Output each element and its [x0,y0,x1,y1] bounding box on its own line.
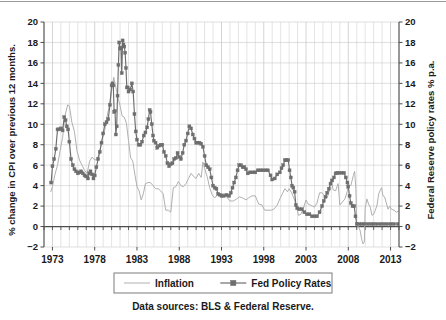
series-marker [129,88,132,91]
series-marker [346,181,349,184]
series-marker [124,67,127,70]
series-marker [273,177,276,180]
series-marker [331,179,334,182]
series-marker [112,84,115,87]
series-marker [300,208,303,211]
series-marker [116,94,119,97]
legend-label: Inflation [155,278,194,289]
series-marker [229,191,232,194]
y-axis-title-left: % change in CPI over previous 12 months. [6,44,17,236]
series-marker [70,158,73,161]
series-marker [289,176,292,179]
y-tick-label-right: 0 [405,221,410,232]
series-marker [191,133,194,136]
series-marker [292,186,295,189]
series-marker [282,164,285,167]
zero-line [44,227,399,231]
chart-canvas: −202468101214161820−20246810121416182019… [0,0,446,320]
series-marker [193,137,196,140]
series-fed-policy-rates [50,39,400,226]
series-marker [372,222,375,225]
series-marker [67,128,70,131]
series-marker [332,176,335,179]
series-marker [347,185,350,188]
x-tick-label: 1998 [253,254,276,265]
series-marker [288,169,291,172]
y-tick-label-left: 10 [27,119,38,130]
series-marker [329,182,332,185]
series-marker [139,143,142,146]
series-marker [234,176,237,179]
y-tick-label-right: 6 [405,160,410,171]
series-marker [201,145,204,148]
y-tick-label-left: 0 [33,221,38,232]
series-marker [89,170,92,173]
series-marker [53,158,56,161]
series-marker [147,118,150,121]
series-marker [123,45,126,48]
series-marker [348,194,351,197]
x-tick-label: 2008 [337,254,360,265]
series-marker [287,159,290,162]
series-marker [63,116,66,119]
series-marker [132,90,135,93]
y-tick-label-right: 20 [405,16,416,27]
x-tick-label: 1983 [126,254,149,265]
series-marker [134,130,137,133]
series-marker [324,195,327,198]
series-marker [115,125,118,128]
series-marker [118,41,121,44]
series-marker [316,215,319,218]
legend-sample-marker [231,280,236,285]
inflation-vs-fed-rates-chart: −202468101214161820−20246810121416182019… [0,0,446,320]
series-marker [210,176,213,179]
x-tick-label: 1993 [210,254,233,265]
series-marker [181,151,184,154]
series-marker [376,222,379,225]
series-marker [144,131,147,134]
series-marker [344,176,347,179]
series-layer [50,39,400,244]
y-tick-label-left: 16 [27,57,38,68]
series-marker [133,113,136,116]
series-marker [366,222,369,225]
series-marker [174,157,177,160]
y-tick-label-right: 12 [405,98,416,109]
y-tick-label-left: 6 [33,160,38,171]
series-marker [236,169,239,172]
series-marker [245,168,248,171]
series-marker [203,154,206,157]
series-marker [121,39,124,42]
y-tick-label-left: 8 [33,139,38,150]
series-marker [141,140,144,143]
series-marker [130,82,133,85]
y-tick-label-right: 8 [405,139,410,150]
series-marker [171,162,174,165]
series-marker [294,204,297,207]
series-marker [280,167,283,170]
y-tick-label-left: 18 [27,37,38,48]
series-marker [105,121,108,124]
series-marker [363,222,366,225]
series-marker [108,103,111,106]
series-marker [353,205,356,208]
chart-caption: Data sources: BLS & Federal Reserve. [132,301,314,312]
series-marker [185,139,188,142]
series-marker [228,194,231,197]
series-marker [117,63,120,66]
series-marker [164,154,167,157]
series-marker [154,141,157,144]
series-marker [179,158,182,161]
series-marker [278,171,281,174]
chart-legend: InflationFed Policy Rates [114,273,332,293]
series-marker [93,174,96,177]
series-marker [54,147,57,150]
y-tick-label-right: 10 [405,119,416,130]
series-marker [64,119,67,122]
series-marker [176,151,179,154]
series-marker [68,140,71,143]
y-tick-label-left: 2 [33,200,38,211]
series-marker [86,177,89,180]
series-marker [349,202,352,205]
y-tick-label-left: 14 [27,78,38,89]
